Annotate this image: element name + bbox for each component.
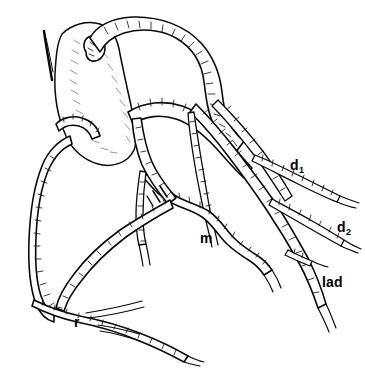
label-r: r (74, 314, 80, 330)
label-d2-subscript: 2 (346, 227, 351, 237)
label-r-group: r (74, 314, 80, 330)
label-m-group: m (200, 230, 213, 246)
coronary-artery-figure: d 1 d 2 lad m r (0, 0, 365, 383)
coronary-artery-drawing: d 1 d 2 lad m r (0, 0, 365, 383)
label-m: m (200, 230, 213, 246)
label-d1-subscript: 1 (299, 165, 304, 175)
label-d2: d (337, 219, 346, 235)
figure-background (0, 0, 365, 383)
label-d1: d (290, 157, 299, 173)
label-lad: lad (322, 274, 343, 290)
label-lad-group: lad (322, 274, 343, 290)
